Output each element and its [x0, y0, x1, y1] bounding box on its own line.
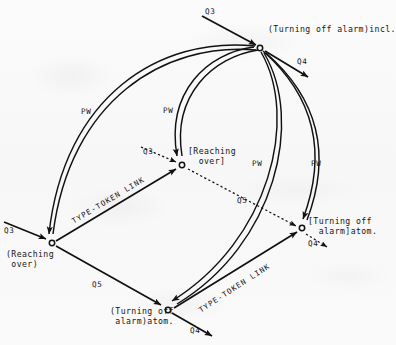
- edge-q3-incoming-top-node: [202, 16, 256, 45]
- network-graph: [0, 0, 396, 345]
- edge-label-q4-right: Q4: [308, 240, 318, 249]
- edge-label-q5-bottom: Q5: [92, 281, 102, 290]
- diagram-canvas: (Turning off alarm)incl. [Reaching over]…: [0, 0, 396, 345]
- node-turning-off-alarm-atom-token[interactable]: [299, 225, 304, 230]
- curve-pw-top-to-reaching-over-token-inner: [180, 50, 258, 156]
- curve-pw-top-to-reaching-over-type-outer: [49, 45, 255, 234]
- edge-label-q3-mid: Q3: [143, 148, 153, 157]
- node-label-turning-off-alarm-incl: (Turning off alarm)incl.: [268, 25, 396, 35]
- node-reaching-over-token[interactable]: [179, 162, 184, 167]
- straight-edges-group: [4, 16, 308, 336]
- node-label-reaching-over-type: (Reaching over): [6, 250, 54, 269]
- edge-label-pw-right2: PW: [311, 160, 321, 169]
- node-turning-off-alarm-incl[interactable]: [257, 45, 262, 50]
- edge-label-q3-left: Q3: [4, 227, 14, 236]
- node-label-turning-off-alarm-atom-token: [Turning off alarm]atom.: [308, 217, 377, 236]
- edge-type-token-link-lower: [174, 232, 297, 308]
- edge-label-pw-mid: PW: [163, 107, 173, 116]
- edge-q5-reaching-over-to-turning-off-atom: [56, 246, 161, 305]
- edge-label-q3-top: Q3: [205, 8, 215, 17]
- node-label-reaching-over-token: [Reaching over]: [188, 147, 236, 166]
- node-reaching-over-type[interactable]: [49, 240, 54, 245]
- edge-label-pw-left: PW: [81, 108, 91, 117]
- curve-pw-top-to-reaching-over-type-inner: [53, 49, 256, 234]
- edge-label-pw-right1: PW: [252, 160, 262, 169]
- edge-label-q4-bottom: Q4: [190, 327, 200, 336]
- edge-label-q4-top: Q4: [297, 58, 307, 67]
- edge-type-token-link-upper: [56, 169, 176, 241]
- node-label-turning-off-alarm-atom-type: (Turning off alarm)atom.: [110, 307, 174, 326]
- edge-label-q5-mid: Q5: [237, 197, 247, 206]
